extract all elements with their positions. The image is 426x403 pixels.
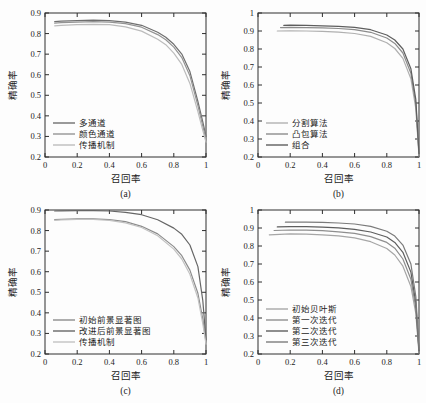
chart-c: 00.20.40.60.810.20.30.40.50.60.70.80.9召回… (0, 200, 213, 403)
legend-label: 颜色通道 (79, 129, 115, 139)
legend: 分割算法凸包算法组合 (266, 118, 328, 150)
y-tick-label: 0.5 (243, 295, 254, 305)
figure-pr-curves: 00.20.40.60.810.20.30.40.50.60.70.80.9召回… (0, 0, 426, 403)
x-axis-label: 召回率 (111, 173, 141, 184)
series-group (55, 20, 206, 142)
y-tick-label: 0.9 (243, 26, 254, 36)
series-line (55, 20, 206, 136)
x-tick-label: 0.8 (168, 160, 179, 170)
x-tick-label: 0.6 (349, 357, 360, 367)
y-tick-label: 0.7 (243, 259, 254, 269)
x-tick-label: 0 (256, 160, 260, 170)
y-tick-label: 0.2 (30, 349, 41, 359)
x-tick-label: 0 (43, 160, 47, 170)
subplot-caption: (c) (120, 386, 131, 397)
y-tick-label: 0.8 (243, 241, 254, 251)
x-axis-label: 召回率 (111, 370, 141, 381)
y-tick-label: 0.7 (30, 49, 41, 59)
chart-b: 00.20.40.60.810.20.30.40.50.60.70.80.91召… (213, 0, 426, 200)
legend-label: 组合 (292, 140, 310, 150)
y-tick-label: 0.9 (30, 8, 41, 18)
legend-label: 传播机制 (79, 140, 115, 150)
y-tick-label: 0.6 (243, 80, 254, 90)
y-axis: 0.20.30.40.50.60.70.80.9 (30, 8, 206, 162)
y-axis-label: 精确率 (7, 70, 18, 100)
x-tick-label: 1 (204, 160, 208, 170)
plot-box (258, 13, 419, 157)
y-tick-label: 0.3 (30, 131, 41, 141)
y-tick-label: 0.8 (243, 44, 254, 54)
y-tick-label: 0.8 (30, 226, 41, 236)
y-tick-label: 1 (250, 8, 254, 18)
y-tick-label: 0.4 (30, 111, 41, 121)
legend: 初始贝叶斯第一次迭代第二次迭代第三次迭代 (266, 304, 337, 347)
x-tick-label: 0 (43, 357, 47, 367)
legend-label: 第二次迭代 (292, 326, 337, 336)
legend-label: 分割算法 (292, 118, 328, 128)
series-line (55, 24, 206, 142)
y-tick-label: 0.7 (243, 62, 254, 72)
y-tick-label: 0.6 (30, 267, 41, 277)
chart-a: 00.20.40.60.810.20.30.40.50.60.70.80.9召回… (0, 0, 213, 200)
x-axis: 00.20.40.60.81 (256, 210, 421, 367)
y-axis: 0.20.30.40.50.60.70.80.91 (243, 8, 419, 162)
x-tick-label: 0.2 (285, 160, 296, 170)
y-axis-label: 精确率 (220, 70, 231, 100)
y-tick-label: 1 (250, 205, 254, 215)
y-tick-label: 0.6 (30, 70, 41, 80)
x-tick-label: 0.4 (104, 357, 115, 367)
y-tick-label: 0.2 (243, 349, 254, 359)
legend-label: 第一次迭代 (292, 315, 337, 325)
y-tick-label: 0.2 (30, 152, 41, 162)
subplot-c: 00.20.40.60.810.20.30.40.50.60.70.80.9召回… (0, 200, 213, 403)
subplot-a: 00.20.40.60.810.20.30.40.50.60.70.80.9召回… (0, 0, 213, 200)
legend-label: 多通道 (79, 118, 106, 128)
subplot-caption: (a) (120, 189, 131, 200)
subplot-d: 00.20.40.60.810.20.30.40.50.60.70.80.91召… (213, 200, 426, 403)
x-tick-label: 0.6 (349, 160, 360, 170)
legend-label: 传播机制 (79, 337, 115, 347)
x-tick-label: 0.4 (317, 160, 328, 170)
subplot-caption: (d) (333, 386, 344, 397)
legend-label: 凸包算法 (292, 129, 328, 139)
subplot-caption: (b) (333, 189, 344, 200)
x-axis: 00.20.40.60.81 (43, 13, 208, 170)
x-tick-label: 0.4 (104, 160, 115, 170)
x-tick-label: 1 (417, 357, 421, 367)
legend-label: 改进后前景显著图 (79, 326, 151, 336)
legend-label: 第三次迭代 (292, 337, 337, 347)
y-tick-label: 0.5 (30, 90, 41, 100)
y-tick-label: 0.9 (243, 223, 254, 233)
y-tick-label: 0.4 (30, 308, 41, 318)
x-tick-label: 0.6 (136, 160, 147, 170)
plot-box (45, 13, 206, 157)
legend: 多通道颜色通道传播机制 (53, 118, 115, 150)
y-tick-label: 0.3 (30, 328, 41, 338)
x-tick-label: 0.2 (285, 357, 296, 367)
y-tick-label: 0.5 (243, 98, 254, 108)
series-line (55, 22, 206, 140)
x-tick-label: 0.8 (168, 357, 179, 367)
y-tick-label: 0.9 (30, 205, 41, 215)
x-tick-label: 0.8 (381, 160, 392, 170)
x-tick-label: 0.2 (72, 160, 83, 170)
subplot-b: 00.20.40.60.810.20.30.40.50.60.70.80.91召… (213, 0, 426, 200)
y-tick-label: 0.5 (30, 287, 41, 297)
x-axis: 00.20.40.60.81 (256, 13, 421, 170)
y-tick-label: 0.3 (243, 331, 254, 341)
x-axis: 00.20.40.60.81 (43, 210, 208, 367)
y-axis-label: 精确率 (220, 267, 231, 297)
x-tick-label: 0.8 (381, 357, 392, 367)
x-axis-label: 召回率 (324, 370, 354, 381)
x-axis-label: 召回率 (324, 173, 354, 184)
x-tick-label: 1 (417, 160, 421, 170)
y-tick-label: 0.4 (243, 313, 254, 323)
x-tick-label: 1 (204, 357, 208, 367)
legend-label: 初始前景显著图 (79, 315, 142, 325)
y-tick-label: 0.4 (243, 116, 254, 126)
x-tick-label: 0.2 (72, 357, 83, 367)
y-tick-label: 0.3 (243, 134, 254, 144)
y-tick-label: 0.6 (243, 277, 254, 287)
x-tick-label: 0.4 (317, 357, 328, 367)
legend: 初始前景显著图改进后前景显著图传播机制 (53, 315, 151, 347)
